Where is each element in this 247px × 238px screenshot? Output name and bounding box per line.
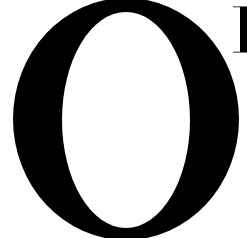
cropped-text-image: O: [0, 0, 247, 238]
partial-serif-letter-stem: [0, 0, 247, 238]
